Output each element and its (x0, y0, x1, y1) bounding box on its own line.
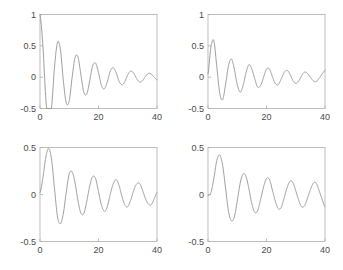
xtick-label-20: 20 (261, 245, 271, 255)
curve-top-left (40, 15, 157, 109)
subplot-bottom-left: 0 20 40 -0.5 0 0.5 (0, 133, 172, 270)
ticks-top-left (40, 15, 157, 109)
axes-bottom-right: 0 20 40 -0.5 0 0.5 (188, 143, 330, 255)
xtick-label-20: 20 (93, 245, 103, 255)
subplot-top-right-svg: 0 20 40 -0.5 0 0.5 1 (168, 0, 343, 135)
ytick-label-05: 0.5 (191, 143, 204, 153)
subplot-bottom-right: 0 20 40 -0.5 0 0.5 (168, 133, 343, 270)
curve-top-right (208, 40, 325, 100)
ytick-label-05: 0.5 (191, 41, 204, 51)
ytick-label-neg05: -0.5 (188, 104, 204, 114)
axes-frame-bottom-right (208, 148, 325, 242)
xtick-label-0: 0 (205, 112, 210, 122)
curve-bottom-right (208, 155, 325, 221)
ytick-label-0: 0 (31, 72, 36, 82)
ytick-label-0: 0 (199, 72, 204, 82)
ytick-label-neg05: -0.5 (20, 104, 36, 114)
axes-bottom-left: 0 20 40 -0.5 0 0.5 (20, 143, 162, 255)
ytick-label-1: 1 (199, 10, 204, 20)
ticks-bottom-right (208, 148, 325, 242)
ytick-label-1: 1 (31, 10, 36, 20)
ytick-label-neg05: -0.5 (20, 237, 36, 247)
curve-bottom-left (40, 148, 157, 223)
axes-frame-top-right (208, 15, 325, 109)
subplot-top-left-svg: 0 20 40 -0.5 0 0.5 1 (0, 0, 172, 135)
xtick-label-40: 40 (320, 245, 330, 255)
figure-canvas: 0 20 40 -0.5 0 0.5 1 (0, 0, 343, 270)
ytick-label-05: 0.5 (23, 41, 36, 51)
xtick-label-20: 20 (261, 112, 271, 122)
ticks-bottom-left (40, 148, 157, 242)
ticks-top-right (208, 15, 325, 109)
xtick-label-20: 20 (93, 112, 103, 122)
xtick-label-40: 40 (320, 112, 330, 122)
ytick-label-0: 0 (199, 190, 204, 200)
ytick-label-neg05: -0.5 (188, 237, 204, 247)
xtick-label-40: 40 (152, 112, 162, 122)
xtick-label-40: 40 (152, 245, 162, 255)
axes-frame-top-left (40, 15, 157, 109)
axes-frame-bottom-left (40, 148, 157, 242)
xtick-label-0: 0 (37, 112, 42, 122)
subplot-bottom-left-svg: 0 20 40 -0.5 0 0.5 (0, 133, 172, 270)
ytick-label-05: 0.5 (23, 143, 36, 153)
subplot-top-left: 0 20 40 -0.5 0 0.5 1 (0, 0, 172, 135)
ytick-label-0: 0 (31, 190, 36, 200)
xtick-label-0: 0 (205, 245, 210, 255)
subplot-bottom-right-svg: 0 20 40 -0.5 0 0.5 (168, 133, 343, 270)
xtick-label-0: 0 (37, 245, 42, 255)
subplot-top-right: 0 20 40 -0.5 0 0.5 1 (168, 0, 343, 135)
axes-top-right: 0 20 40 -0.5 0 0.5 1 (188, 10, 330, 122)
